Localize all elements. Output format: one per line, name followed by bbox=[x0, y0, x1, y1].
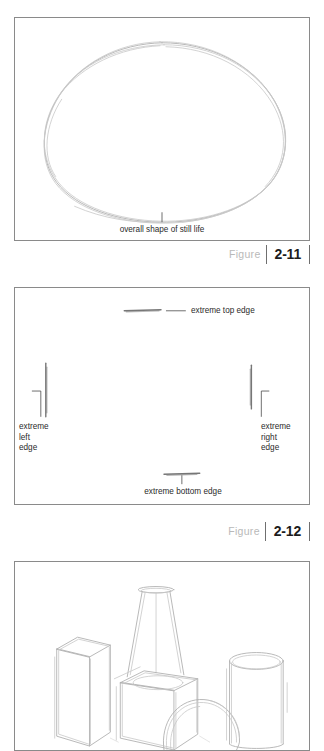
cylinder-solid bbox=[227, 653, 288, 749]
overall-shape-sketch bbox=[15, 18, 309, 240]
overall-shape-label: overall shape of still life bbox=[15, 225, 309, 236]
extreme-bottom-edge-label: extreme bottom edge bbox=[105, 487, 261, 498]
figure-label-word: Figure bbox=[229, 248, 261, 260]
caption-rule-left bbox=[266, 245, 267, 264]
extreme-edges-sketch bbox=[15, 288, 309, 504]
figure-2-11-caption: Figure 2-11 bbox=[14, 244, 310, 264]
caption-rule-left bbox=[265, 522, 266, 541]
cone-solid bbox=[127, 587, 184, 677]
cube-solid bbox=[114, 667, 197, 750]
figure-2-12-panel: extreme top edge extreme left edge extre… bbox=[14, 287, 310, 505]
caption-rule-right bbox=[309, 245, 310, 264]
geometric-solids-sketch bbox=[15, 562, 309, 750]
sphere-solid bbox=[163, 700, 239, 750]
figure-number: 2-11 bbox=[272, 246, 304, 262]
figure-2-11-panel: overall shape of still life bbox=[14, 17, 310, 241]
extreme-right-edge-label: extreme right edge bbox=[261, 422, 291, 454]
figure-label-word: Figure bbox=[228, 525, 260, 537]
figure-2-12-caption: Figure 2-12 bbox=[14, 521, 310, 541]
extreme-left-edge-label: extreme left edge bbox=[19, 422, 49, 454]
caption-rule-right bbox=[309, 522, 310, 541]
extreme-top-edge-label: extreme top edge bbox=[191, 306, 255, 317]
figure-solids-panel bbox=[14, 561, 310, 751]
box-solid bbox=[55, 637, 111, 746]
figure-number: 2-12 bbox=[271, 523, 304, 539]
